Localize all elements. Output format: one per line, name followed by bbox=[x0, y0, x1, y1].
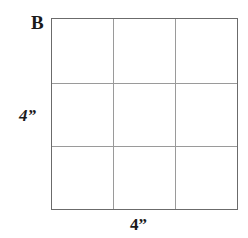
figure-letter-label: B bbox=[31, 13, 44, 32]
grid-line-horizontal-1 bbox=[52, 83, 237, 84]
grid-square bbox=[51, 18, 238, 210]
grid-line-vertical-1 bbox=[113, 19, 114, 209]
grid-line-vertical-2 bbox=[175, 19, 176, 209]
grid-line-horizontal-2 bbox=[52, 146, 237, 147]
figure-canvas: B 4” 4” bbox=[0, 0, 248, 238]
left-dimension-label: 4” bbox=[19, 107, 36, 124]
bottom-dimension-label: 4” bbox=[130, 216, 147, 233]
